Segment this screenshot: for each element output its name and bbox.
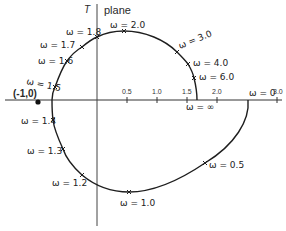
frequency-markers bbox=[51, 29, 207, 194]
label-w40: ω = 4.0 bbox=[193, 58, 228, 68]
nyquist-diagram: 0.5 1.0 1.5 2.0 3.0 T plane (-1,0) ω = 0… bbox=[0, 0, 286, 231]
tick-label-1-0: 1.0 bbox=[152, 88, 162, 95]
label-w17: ω = 1.7 bbox=[40, 40, 75, 50]
tick-label-1-5: 1.5 bbox=[182, 88, 192, 95]
label-w30: ω = 3.0 bbox=[177, 28, 214, 51]
label-w05: ω = 0.5 bbox=[209, 160, 244, 170]
tick-label-0-5: 0.5 bbox=[122, 88, 132, 95]
label-w18: ω = 1.8 bbox=[66, 27, 101, 37]
plane-label: plane bbox=[104, 4, 131, 16]
tick-label-2-0: 2.0 bbox=[212, 88, 222, 95]
label-w10: ω = 1.0 bbox=[120, 198, 155, 208]
label-w12: ω = 1.2 bbox=[52, 178, 87, 188]
label-winf: ω = ∞ bbox=[186, 102, 214, 112]
plane-symbol: T bbox=[84, 4, 91, 15]
label-w20: ω = 2.0 bbox=[110, 20, 145, 30]
label-w14: ω = 1.4 bbox=[21, 116, 56, 126]
critical-point-label: (-1,0) bbox=[13, 88, 37, 99]
label-w16: ω = 1.6 bbox=[38, 56, 73, 66]
label-w13: ω = 1.3 bbox=[27, 146, 62, 156]
label-w0: ω = 0 bbox=[249, 88, 276, 98]
label-w60: ω = 6.0 bbox=[199, 72, 234, 82]
critical-point bbox=[35, 99, 40, 104]
